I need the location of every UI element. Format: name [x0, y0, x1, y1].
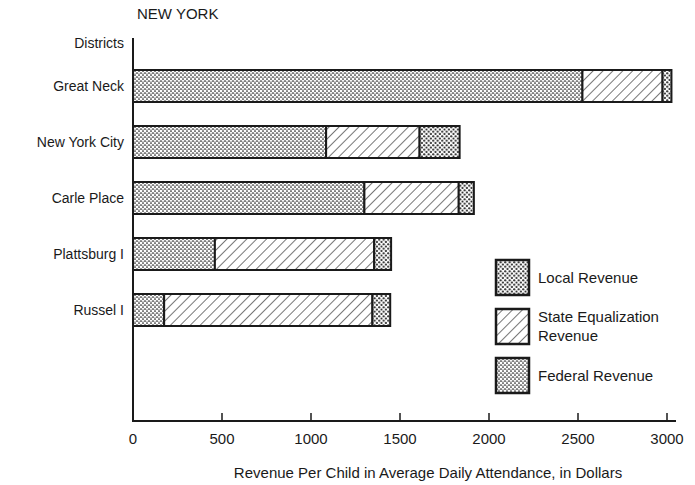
- bar-segment-coarse-dots: [374, 238, 391, 270]
- legend-label: Revenue: [538, 327, 598, 344]
- bar-segment-fine-stipple: [133, 182, 364, 214]
- bar-segment-diagonal-hatch: [364, 182, 458, 214]
- x-tick-label: 2500: [561, 430, 594, 447]
- x-tick-label: 2000: [472, 430, 505, 447]
- bars: [133, 70, 671, 326]
- x-tick-label: 3000: [650, 430, 683, 447]
- legend-label: State Equalization: [538, 308, 659, 325]
- bar-segment-coarse-dots: [663, 70, 672, 102]
- legend-entry: Local Revenue: [496, 260, 638, 295]
- bar-new-york-city: [133, 126, 460, 158]
- bar-segment-diagonal-hatch: [582, 70, 662, 102]
- legend-label: Local Revenue: [538, 269, 638, 286]
- bar-segment-fine-stipple: [133, 294, 164, 326]
- bar-segment-coarse-dots: [372, 294, 390, 326]
- y-axis-label: Districts: [74, 35, 124, 51]
- bar-segment-fine-stipple: [133, 238, 215, 270]
- bar-russel-i: [133, 294, 390, 326]
- x-tick-label: 500: [209, 430, 234, 447]
- bar-plattsburg-i: [133, 238, 391, 270]
- category-label: New York City: [37, 134, 124, 150]
- category-label: Plattsburg I: [53, 246, 124, 262]
- x-tick-label: 1000: [294, 430, 327, 447]
- bar-segment-coarse-dots: [420, 126, 460, 158]
- category-label: Russel I: [73, 302, 124, 318]
- legend-label: Federal Revenue: [538, 367, 653, 384]
- chart-title: NEW YORK: [137, 5, 218, 22]
- bar-segment-diagonal-hatch: [164, 294, 372, 326]
- x-axis-label: Revenue Per Child in Average Daily Atten…: [234, 464, 622, 481]
- bar-segment-fine-stipple: [133, 70, 582, 102]
- x-tick-label: 0: [129, 430, 137, 447]
- x-tick-label: 1500: [383, 430, 416, 447]
- bar-carle-place: [133, 182, 474, 214]
- legend-swatch: [496, 309, 529, 344]
- category-labels: Great NeckNew York CityCarle PlacePlatts…: [37, 78, 125, 318]
- bar-great-neck: [133, 70, 671, 102]
- legend-entry: State EqualizationRevenue: [496, 308, 659, 344]
- stacked-bar-chart: NEW YORK Districts Great NeckNew York Ci…: [0, 0, 695, 485]
- legend-entry: Federal Revenue: [496, 358, 653, 393]
- bar-segment-coarse-dots: [459, 182, 474, 214]
- x-axis-ticks: 050010001500200025003000: [129, 413, 684, 447]
- legend-swatch: [496, 358, 529, 393]
- bar-segment-diagonal-hatch: [326, 126, 419, 158]
- category-label: Carle Place: [52, 190, 125, 206]
- bar-segment-diagonal-hatch: [215, 238, 374, 270]
- category-label: Great Neck: [53, 78, 125, 94]
- legend-swatch: [496, 260, 529, 295]
- bar-segment-fine-stipple: [133, 126, 326, 158]
- legend: Local RevenueState EqualizationRevenueFe…: [496, 260, 659, 393]
